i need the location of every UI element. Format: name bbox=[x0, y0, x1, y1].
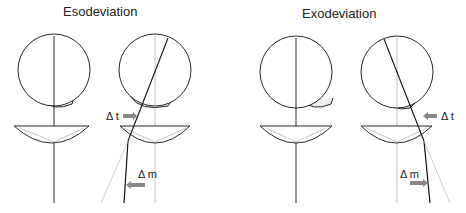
delta-t-label-eso: Δ t bbox=[106, 110, 119, 122]
delta-t-arrow-eso bbox=[123, 112, 137, 120]
exo-reference-eye bbox=[260, 36, 333, 203]
eso-reference-eye bbox=[14, 34, 90, 203]
delta-t-arrow-exo bbox=[423, 112, 437, 120]
delta-m-label-eso: Δ m bbox=[138, 168, 157, 180]
deviation-diagram bbox=[0, 0, 466, 213]
delta-m-arrow-eso bbox=[126, 181, 145, 189]
delta-m-arrow-exo bbox=[410, 179, 428, 187]
delta-t-label-exo: Δ t bbox=[441, 110, 454, 122]
delta-m-label-exo: Δ m bbox=[400, 168, 419, 180]
